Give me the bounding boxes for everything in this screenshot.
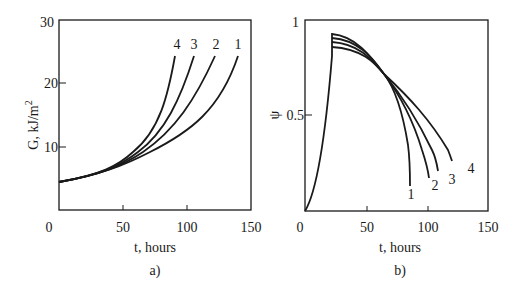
x-tick-label: 0 xyxy=(46,220,53,235)
y-tick-label: 10 xyxy=(44,140,58,155)
panel-caption: b) xyxy=(394,263,406,279)
curves-a xyxy=(59,56,238,182)
curve-label: 4 xyxy=(174,37,181,52)
curve-label: 3 xyxy=(191,37,198,52)
curve-4 xyxy=(59,56,175,182)
curve-1 xyxy=(59,56,238,182)
curve-label: 2 xyxy=(432,178,439,193)
panel-b: 0 50 100 150 0.5 1 t, hours ψ b) 1 2 3 4 xyxy=(267,15,499,279)
rise-segment xyxy=(305,56,332,211)
curve-4 xyxy=(332,47,452,161)
x-tick-label: 50 xyxy=(116,220,130,235)
x-axis-label: t, hours xyxy=(379,240,421,255)
x-tick-label: 100 xyxy=(177,220,198,235)
y-tick-label: 30 xyxy=(40,15,54,30)
curve-2 xyxy=(332,38,429,178)
y-tick-label: 20 xyxy=(44,76,58,91)
curve-label: 4 xyxy=(468,161,475,176)
curves-b xyxy=(305,34,452,211)
curve-label: 3 xyxy=(449,172,456,187)
x-tick-label: 0 xyxy=(297,220,304,235)
y-axis-label: ψ xyxy=(267,110,282,119)
panel-a: 0 50 100 150 10 20 30 t, hours G, kJ/m2 … xyxy=(23,15,262,279)
figure: 0 50 100 150 10 20 30 t, hours G, kJ/m2 … xyxy=(0,0,524,295)
x-tick-label: 150 xyxy=(241,220,262,235)
curve-2 xyxy=(59,56,215,182)
x-axis-label: t, hours xyxy=(134,240,176,255)
curve-label: 1 xyxy=(235,37,242,52)
x-tick-label: 50 xyxy=(360,220,374,235)
plot-frame-a xyxy=(59,20,251,210)
curve-label: 2 xyxy=(213,37,220,52)
x-tick-label: 100 xyxy=(418,220,439,235)
y-axis-label: G, kJ/m2 xyxy=(23,100,41,149)
curve-label: 1 xyxy=(408,187,415,202)
x-tick-label: 150 xyxy=(478,220,499,235)
y-tick-label: 1 xyxy=(292,15,299,30)
panel-caption: a) xyxy=(150,263,161,279)
y-tick-label: 0.5 xyxy=(287,108,305,123)
